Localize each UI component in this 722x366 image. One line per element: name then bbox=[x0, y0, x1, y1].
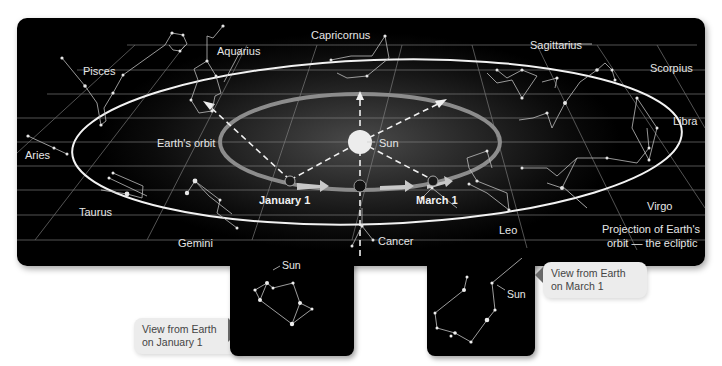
label-aquarius: Aquarius bbox=[217, 45, 260, 57]
inset-view-january: Sun bbox=[230, 258, 354, 356]
label-january-1: January 1 bbox=[259, 194, 310, 206]
callout-march-line1: View from Earth bbox=[551, 267, 639, 280]
earth-february-icon bbox=[354, 180, 366, 192]
inset-march-sun-label: Sun bbox=[507, 288, 526, 300]
label-capricornus: Capricornus bbox=[311, 29, 370, 41]
label-pisces: Pisces bbox=[83, 65, 115, 77]
label-taurus: Taurus bbox=[79, 206, 112, 218]
label-virgo: Virgo bbox=[647, 200, 672, 212]
callout-march: View from Earth on March 1 bbox=[543, 262, 647, 298]
label-scorpius: Scorpius bbox=[650, 62, 693, 74]
inset-january-sun-label: Sun bbox=[282, 259, 301, 271]
ecliptic-diagram-panel: Capricornus Aquarius Pisces Aries Taurus… bbox=[17, 18, 705, 266]
callout-january-line1: View from Earth bbox=[142, 323, 236, 336]
constellation-lines bbox=[28, 26, 657, 246]
callout-march-line2: on March 1 bbox=[551, 280, 639, 293]
inset-view-march: Sun bbox=[427, 258, 535, 356]
label-leo: Leo bbox=[499, 224, 517, 236]
sightlines bbox=[207, 98, 442, 256]
label-sagittarius: Sagittarius bbox=[530, 39, 582, 51]
label-aries: Aries bbox=[25, 149, 50, 161]
leader-lines bbox=[367, 44, 592, 208]
earth-march-icon bbox=[428, 176, 438, 186]
label-libra: Libra bbox=[673, 115, 697, 127]
inset-january-stars bbox=[230, 258, 354, 356]
callout-january-line2: on January 1 bbox=[142, 336, 236, 349]
label-ecliptic-line2: orbit — the ecliptic bbox=[607, 237, 697, 249]
label-ecliptic-line1: Projection of Earth's bbox=[602, 223, 700, 235]
label-gemini: Gemini bbox=[178, 237, 213, 249]
label-sun: Sun bbox=[379, 137, 399, 149]
label-earths-orbit: Earth's orbit bbox=[157, 137, 215, 149]
inset-march-stars bbox=[427, 258, 535, 356]
label-march-1: March 1 bbox=[416, 194, 458, 206]
earth-january-icon bbox=[285, 176, 295, 186]
label-cancer: Cancer bbox=[378, 235, 413, 247]
